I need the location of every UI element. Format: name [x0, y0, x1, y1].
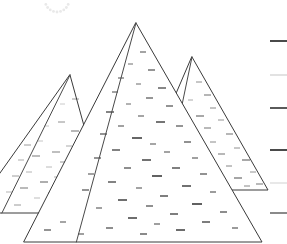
- arc-dot: [46, 6, 49, 9]
- arc-dot: [44, 3, 47, 6]
- arc-dot: [59, 10, 62, 13]
- pyramid-scene-svg: [0, 0, 287, 244]
- arc-dot: [56, 11, 59, 14]
- faint-dotted-arc: [44, 3, 69, 13]
- arc-dot: [62, 9, 65, 12]
- arc-dot: [49, 9, 52, 12]
- right-edge-scale: [270, 41, 287, 213]
- arc-dot: [52, 10, 55, 13]
- arc-dot: [67, 3, 70, 6]
- pyramid-illustration-canvas: [0, 0, 287, 244]
- arc-dot: [65, 6, 68, 9]
